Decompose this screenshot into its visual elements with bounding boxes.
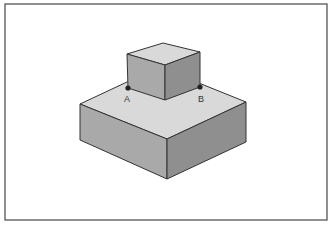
small-cube bbox=[127, 43, 200, 100]
point-b-marker bbox=[197, 84, 202, 89]
point-a-marker bbox=[125, 85, 130, 90]
point-a-label: A bbox=[124, 95, 130, 104]
point-b-label: B bbox=[198, 95, 204, 104]
stacked-boxes-diagram bbox=[0, 0, 335, 230]
